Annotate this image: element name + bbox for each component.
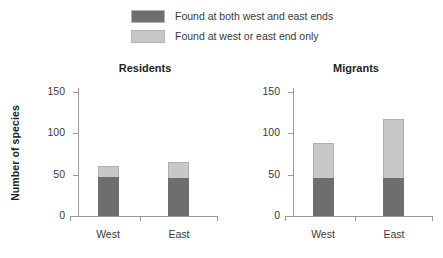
plot-area-migrants: 0 50 100 150 West East [293, 92, 433, 216]
x-axis-tick-start-migrants [285, 216, 286, 221]
ytick-0-migrants: 0 [274, 209, 280, 221]
x-axis-tick-mid-migrants [355, 216, 356, 221]
panel-title-migrants: Migrants [281, 62, 431, 74]
bar-residents-east [168, 162, 189, 216]
bar-segment-only-migrants-east [383, 119, 404, 179]
x-axis-line-migrants [285, 216, 433, 217]
xtick-label-residents-west: West [80, 228, 136, 240]
legend-label-both: Found at both west and east ends [175, 10, 333, 23]
xtick-label-residents-east: East [151, 228, 207, 240]
panel-title-residents: Residents [70, 62, 220, 74]
x-axis-line-residents [70, 216, 218, 217]
x-axis-tick-mid-residents [140, 216, 141, 221]
xtick-label-migrants-east: East [366, 228, 422, 240]
ytick-100-residents: 100 [47, 126, 65, 138]
legend-label-only: Found at west or east end only [175, 30, 319, 43]
bar-migrants-west [313, 143, 334, 216]
ytick-50-migrants: 50 [268, 168, 280, 180]
y-axis-line-migrants [293, 88, 294, 216]
ytick-150-migrants: 150 [262, 85, 280, 97]
ytick-100-migrants: 100 [262, 126, 280, 138]
bar-segment-both-residents-west [98, 177, 119, 216]
plot-area-residents: 0 50 100 150 West East [78, 92, 218, 216]
bar-segment-only-residents-east [168, 162, 189, 178]
chart-legend: Found at both west and east ends Found a… [131, 10, 333, 43]
legend-item-both: Found at both west and east ends [131, 10, 333, 23]
bar-migrants-east [383, 119, 404, 217]
bar-residents-west [98, 166, 119, 216]
bar-segment-only-migrants-west [313, 143, 334, 178]
ytick-150-residents: 150 [47, 85, 65, 97]
y-axis-label: Number of species [9, 0, 21, 98]
legend-item-only: Found at west or east end only [131, 30, 333, 43]
ytick-50-residents: 50 [53, 168, 65, 180]
y-axis-label-text: Number of species [9, 98, 21, 208]
ytick-0-residents: 0 [59, 209, 65, 221]
x-axis-tick-end-migrants [432, 216, 433, 221]
panel-migrants: Migrants 0 50 100 150 West East [263, 60, 443, 258]
bar-segment-both-migrants-west [313, 178, 334, 216]
xtick-label-migrants-west: West [295, 228, 351, 240]
x-axis-tick-end-residents [217, 216, 218, 221]
y-axis-line-residents [78, 88, 79, 216]
panel-residents: Residents 0 50 100 150 West East [48, 60, 233, 258]
bar-segment-both-residents-east [168, 178, 189, 216]
bar-segment-only-residents-west [98, 166, 119, 177]
legend-swatch-only [131, 30, 165, 43]
legend-swatch-both [131, 10, 165, 23]
bar-segment-both-migrants-east [383, 178, 404, 216]
x-axis-tick-start-residents [70, 216, 71, 221]
